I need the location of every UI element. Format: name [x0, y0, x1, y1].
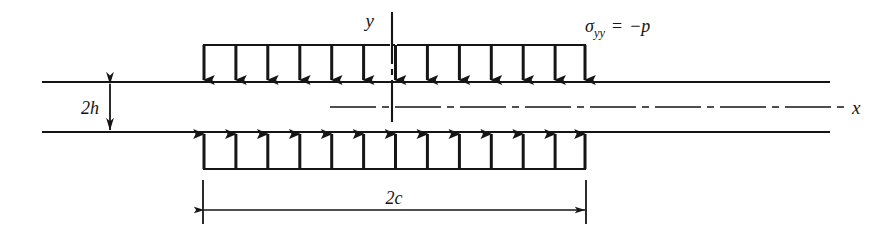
thickness-label: 2h	[81, 98, 99, 118]
top-load-group	[203, 45, 586, 80]
stress-value: −p	[629, 16, 650, 36]
y-axis-label: y	[364, 10, 375, 31]
figure-canvas: y x 2h 2c σyy=−p	[0, 0, 894, 233]
stress-equals: =	[612, 16, 622, 36]
load-width-label: 2c	[386, 188, 403, 208]
svg-text:σyy=−p: σyy=−p	[585, 16, 650, 40]
x-axis-label: x	[851, 97, 861, 118]
bottom-load-group	[203, 134, 586, 169]
stress-label: σyy=−p	[585, 16, 650, 40]
strip-load-figure: y x 2h 2c σyy=−p	[0, 0, 894, 233]
stress-subscript: yy	[592, 26, 606, 40]
